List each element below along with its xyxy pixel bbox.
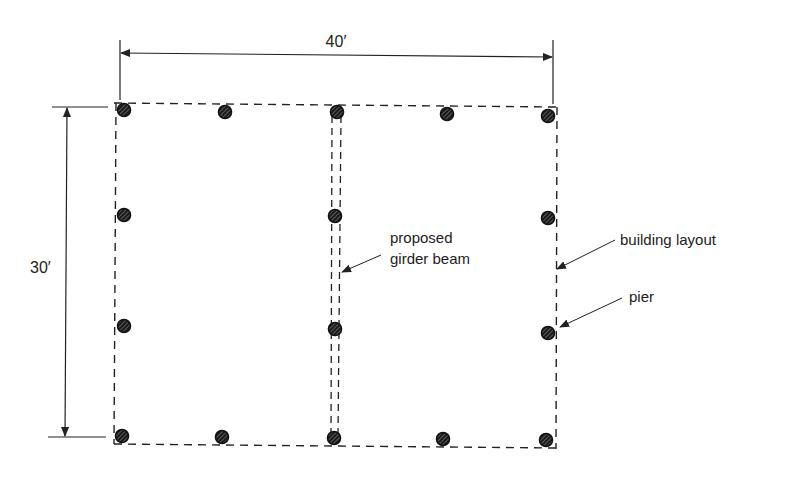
height-dimension: 30′ (30, 107, 108, 437)
building-layout-callout: building layout (557, 231, 717, 269)
width-label: 40′ (326, 33, 347, 50)
pier-mid2-10 (542, 327, 555, 340)
pier-bottom-12 (216, 431, 229, 444)
height-dimension-line (65, 108, 67, 436)
pier-top-1 (219, 106, 232, 119)
pier-bottom-14 (437, 433, 450, 446)
pier-leader-arrow (560, 298, 622, 327)
piers (116, 104, 555, 447)
pier-mid2-9 (329, 323, 342, 336)
pier-callout: pier (560, 288, 654, 327)
pier-top-0 (118, 104, 131, 117)
pier-top-4 (542, 110, 555, 123)
width-dimension: 40′ (120, 33, 553, 104)
girder-beam-callout: proposed girder beam (342, 229, 470, 272)
building-layout-outline (114, 103, 557, 449)
building-layout-label: building layout (620, 231, 717, 248)
width-dimension-line (121, 53, 552, 57)
pier-mid1-5 (118, 209, 131, 222)
layout-left-edge (114, 103, 116, 444)
girder-beam (331, 116, 341, 436)
pier-bottom-11 (116, 430, 129, 443)
pier-mid2-8 (118, 320, 131, 333)
pier-mid1-6 (329, 210, 342, 223)
pier-label: pier (629, 288, 654, 305)
foundation-plan-diagram: 40′ 30′ proposed girder beam building la… (0, 0, 785, 478)
height-label: 30′ (30, 259, 51, 276)
pier-mid1-7 (542, 212, 555, 225)
girder-beam-left-edge (331, 116, 332, 436)
pier-bottom-13 (328, 432, 341, 445)
building-layout-leader-arrow (557, 240, 615, 269)
girder-label-line1: proposed (390, 229, 453, 246)
girder-leader-arrow (342, 255, 381, 272)
girder-label-line2: girder beam (390, 250, 470, 267)
pier-top-2 (331, 106, 344, 119)
layout-right-edge (556, 107, 557, 449)
pier-top-3 (441, 108, 454, 121)
girder-beam-right-edge (338, 116, 341, 436)
pier-bottom-15 (540, 434, 553, 447)
